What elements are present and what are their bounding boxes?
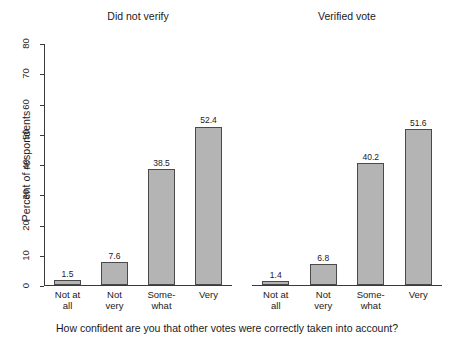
x-category-label: Not at all [252, 290, 300, 311]
bar [405, 129, 432, 285]
bar [195, 127, 221, 286]
panel-did-not-verify: Did not verify 1.5Not at all7.6Not very3… [44, 44, 232, 286]
y-tick-label: 60 [21, 93, 30, 115]
x-category-label: Some- what [138, 290, 185, 311]
bar-value-label: 7.6 [91, 251, 138, 261]
y-tick-label: 70 [21, 63, 30, 85]
bar-value-label: 1.4 [252, 270, 300, 280]
bar [262, 281, 289, 285]
bar [310, 264, 337, 285]
y-tick-label: 40 [21, 154, 30, 176]
y-tick-label: 10 [21, 244, 30, 266]
panel-title: Verified vote [252, 10, 442, 22]
y-tick-label: 20 [21, 214, 30, 236]
bar [357, 163, 384, 285]
panel-verified-vote: Verified vote 1.4Not at all6.8Not very40… [252, 44, 442, 286]
bar-value-label: 38.5 [138, 158, 185, 168]
y-tick-label: 30 [21, 184, 30, 206]
plot-area: 01020304050607080 Did not verify 1.5Not … [44, 44, 442, 286]
x-category-label: Very [395, 290, 443, 301]
x-axis-line [252, 285, 442, 286]
bar-chart-figure: Percent of respondents 01020304050607080… [0, 0, 454, 347]
y-tick-label: 0 [21, 275, 30, 297]
bar-value-label: 52.4 [185, 115, 232, 125]
x-category-label: Not very [91, 290, 138, 311]
bar-value-label: 1.5 [44, 269, 91, 279]
y-tick [40, 286, 44, 287]
y-tick-label: 50 [21, 123, 30, 145]
x-axis-line [44, 285, 232, 286]
bar [148, 169, 174, 285]
panel-title: Did not verify [44, 10, 232, 22]
x-category-label: Some- what [347, 290, 395, 311]
bar-value-label: 51.6 [395, 118, 443, 128]
x-axis-title: How confident are you that other votes w… [0, 322, 454, 334]
x-category-label: Not very [300, 290, 348, 311]
x-category-label: Not at all [44, 290, 91, 311]
bar [54, 280, 80, 285]
bar-value-label: 40.2 [347, 152, 395, 162]
x-category-label: Very [185, 290, 232, 301]
bar-value-label: 6.8 [300, 253, 348, 263]
y-tick-label: 80 [21, 33, 30, 55]
bar [101, 262, 127, 285]
